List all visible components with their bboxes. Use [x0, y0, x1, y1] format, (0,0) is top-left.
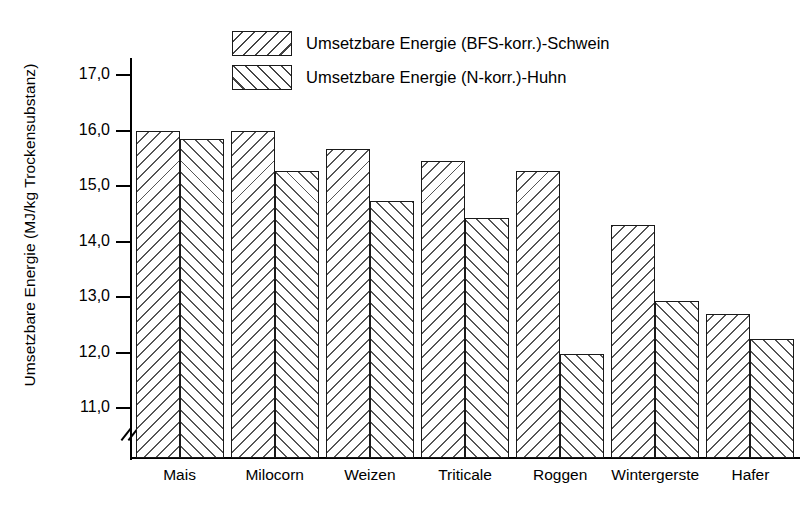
y-tick-mark: [116, 352, 131, 354]
legend-label-2: Umsetzbare Energie (N-korr.)-Huhn: [306, 68, 566, 87]
bar-mais-series-1: [136, 131, 180, 458]
y-tick-mark: [116, 74, 131, 76]
legend: Umsetzbare Energie (BFS-korr.)-SchweinUm…: [232, 26, 610, 94]
y-axis-title: Umsetzbare Energie (MJ/kg Trockensubstan…: [21, 5, 39, 445]
y-tick-label: 16,0: [56, 121, 110, 139]
y-tick-mark: [116, 296, 131, 298]
bar-milocorn-series-1: [231, 131, 275, 458]
legend-label-1: Umsetzbare Energie (BFS-korr.)-Schwein: [306, 34, 610, 53]
legend-item-1: Umsetzbare Energie (BFS-korr.)-Schwein: [232, 26, 610, 60]
bar-roggen-series-1: [516, 171, 560, 458]
bar-wintergerste-series-1: [611, 225, 655, 458]
bar-mais-series-2: [180, 139, 224, 458]
y-tick-label: 17,0: [56, 65, 110, 83]
bar-chart: Umsetzbare Energie (MJ/kg Trockensubstan…: [0, 0, 802, 508]
bar-weizen-series-1: [326, 149, 370, 458]
bar-weizen-series-2: [370, 201, 414, 458]
y-tick-mark: [116, 407, 131, 409]
bar-hafer-series-1: [706, 314, 750, 458]
bar-milocorn-series-2: [275, 171, 319, 458]
y-tick-label: 12,0: [56, 343, 110, 361]
bar-hafer-series-2: [750, 339, 794, 458]
bar-triticale-series-2: [465, 218, 509, 458]
y-tick-label: 13,0: [56, 287, 110, 305]
y-tick-mark: [116, 241, 131, 243]
y-axis-line: [130, 58, 132, 460]
bar-triticale-series-1: [421, 161, 465, 458]
y-tick-label: 14,0: [56, 232, 110, 250]
legend-item-2: Umsetzbare Energie (N-korr.)-Huhn: [232, 60, 610, 94]
y-tick-mark: [116, 185, 131, 187]
legend-swatch-icon-2: [232, 65, 292, 90]
legend-swatch-icon-1: [232, 31, 292, 56]
bar-roggen-series-2: [560, 354, 604, 458]
y-tick-label: 11,0: [56, 398, 110, 416]
x-axis-label-hafer: Hafer: [689, 466, 802, 484]
bar-wintergerste-series-2: [655, 301, 699, 458]
y-tick-mark: [116, 130, 131, 132]
y-tick-label: 15,0: [56, 176, 110, 194]
